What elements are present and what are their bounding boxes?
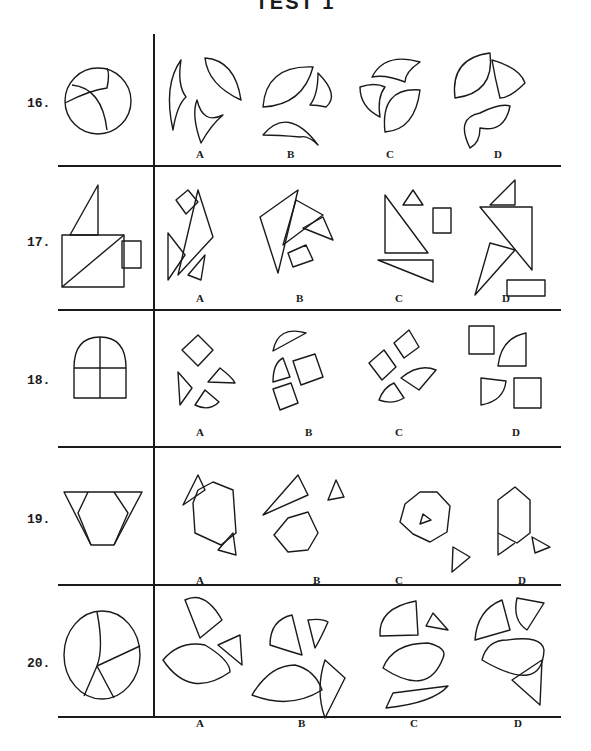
question-17-option-b-figure[interactable] xyxy=(258,185,348,285)
row-divider xyxy=(58,446,561,448)
row-divider xyxy=(58,309,561,311)
question-16-option-d-figure[interactable] xyxy=(450,48,530,158)
question-20-figure xyxy=(62,608,144,703)
option-label-d[interactable]: D xyxy=(514,717,522,729)
column-divider xyxy=(153,34,155,717)
question-16-option-c-figure[interactable] xyxy=(355,52,430,152)
question-20-option-a-figure[interactable] xyxy=(160,590,245,700)
question-number: 17. xyxy=(27,235,50,250)
option-label-b[interactable]: B xyxy=(296,292,303,304)
question-18-option-b-figure[interactable] xyxy=(268,325,348,420)
question-17-option-a-figure[interactable] xyxy=(163,185,248,295)
question-20-option-c-figure[interactable] xyxy=(378,598,458,708)
option-label-c[interactable]: C xyxy=(395,574,403,586)
question-number: 16. xyxy=(27,96,50,111)
question-19-option-b-figure[interactable] xyxy=(258,470,348,570)
page-title: TEST 1 xyxy=(0,0,591,14)
question-18-option-a-figure[interactable] xyxy=(175,330,250,410)
question-19-figure xyxy=(62,490,144,550)
option-label-b[interactable]: B xyxy=(298,717,305,729)
row-divider xyxy=(58,165,561,167)
question-18-option-d-figure[interactable] xyxy=(466,323,551,423)
question-19-option-a-figure[interactable] xyxy=(178,470,253,570)
question-19-option-d-figure[interactable] xyxy=(495,475,570,565)
row-divider xyxy=(58,584,561,586)
option-label-b[interactable]: B xyxy=(313,574,320,586)
option-label-c[interactable]: C xyxy=(410,717,418,729)
question-16-option-a-figure[interactable] xyxy=(163,55,248,155)
question-17-option-d-figure[interactable] xyxy=(470,175,550,295)
option-label-a[interactable]: A xyxy=(196,292,204,304)
question-16-figure xyxy=(60,60,140,140)
option-label-c[interactable]: C xyxy=(386,148,394,160)
question-16-option-b-figure[interactable] xyxy=(258,55,338,155)
option-label-a[interactable]: A xyxy=(196,717,204,729)
option-label-a[interactable]: A xyxy=(196,426,204,438)
question-20-option-d-figure[interactable] xyxy=(472,595,557,705)
question-18-option-c-figure[interactable] xyxy=(364,325,444,420)
option-label-c[interactable]: C xyxy=(395,426,403,438)
option-label-d[interactable]: D xyxy=(502,292,510,304)
option-label-d[interactable]: D xyxy=(518,574,526,586)
option-label-a[interactable]: A xyxy=(196,148,204,160)
question-20-option-b-figure[interactable] xyxy=(250,610,350,720)
question-17-figure xyxy=(60,180,145,290)
option-label-d[interactable]: D xyxy=(512,426,520,438)
question-19-option-c-figure[interactable] xyxy=(395,484,475,574)
option-label-b[interactable]: B xyxy=(305,426,312,438)
question-17-option-c-figure[interactable] xyxy=(373,185,458,305)
option-label-c[interactable]: C xyxy=(395,292,403,304)
question-18-figure xyxy=(72,335,132,400)
question-number: 20. xyxy=(27,656,50,671)
option-label-b[interactable]: B xyxy=(287,148,294,160)
option-label-a[interactable]: A xyxy=(196,574,204,586)
question-number: 19. xyxy=(27,512,50,527)
option-label-d[interactable]: D xyxy=(494,148,502,160)
question-number: 18. xyxy=(27,373,50,388)
